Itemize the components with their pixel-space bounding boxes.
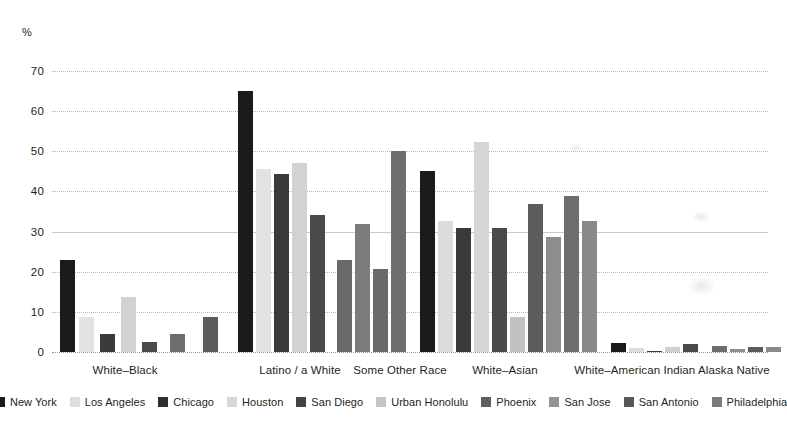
legend-swatch-icon [0,397,5,407]
y-axis-tick-0: 0 [14,346,44,358]
bar [373,269,388,352]
legend-swatch-icon [158,397,168,407]
chart-legend: New YorkLos AngelesChicagoHoustonSan Die… [0,396,782,408]
bar [582,221,597,352]
y-axis-unit-label: % [22,26,32,38]
x-axis-label-1: Latino / a White [259,364,341,376]
legend-item-label: Los Angeles [85,396,146,408]
legend-item-label: Urban Honolulu [391,396,468,408]
bar [292,163,307,352]
bar [256,169,271,352]
bar [510,317,525,352]
y-axis-tick-50: 50 [14,145,44,157]
legend-item-label: San Diego [311,396,363,408]
bar [121,297,136,352]
legend-item[interactable]: Urban Honolulu [376,396,468,408]
bar [100,334,115,352]
scan-artifact [568,143,584,153]
bar [766,347,781,352]
bar [310,215,325,352]
y-axis-tick-20: 20 [14,266,44,278]
bar [142,342,157,352]
bar [337,260,352,352]
legend-swatch-icon [712,397,722,407]
y-axis-tick-40: 40 [14,185,44,197]
legend-item-label: Houston [242,396,283,408]
bar [456,228,471,352]
legend-item-label: San Antonio [639,396,699,408]
bar [611,343,626,352]
x-axis-label-3: White–Asian [472,364,538,376]
legend-item-label: Phoenix [496,396,536,408]
legend-item-label: Chicago [173,396,214,408]
plot-area [52,71,768,352]
legend-swatch-icon [624,397,634,407]
legend-item-label: San Jose [564,396,610,408]
legend-item-label: Philadelphia [727,396,787,408]
y-axis-tick-70: 70 [14,65,44,77]
legend-item-label: New York [10,396,57,408]
legend-swatch-icon [70,397,80,407]
legend-item[interactable]: Phoenix [481,396,536,408]
x-axis-label-0: White–Black [92,364,157,376]
bar [355,224,370,352]
legend-item[interactable]: San Diego [296,396,363,408]
bar [420,171,435,352]
bar [564,196,579,352]
bar [170,334,185,352]
y-axis-tick-60: 60 [14,105,44,117]
bar [274,174,289,352]
bar [492,228,507,352]
x-axis-baseline [52,352,768,353]
legend-swatch-icon [376,397,386,407]
y-axis-tick-30: 30 [14,226,44,238]
legend-item[interactable]: San Antonio [624,396,699,408]
legend-swatch-icon [549,397,559,407]
bar [60,260,75,352]
legend-item[interactable]: Los Angeles [70,396,146,408]
bar [203,317,218,352]
y-axis-tick-10: 10 [14,306,44,318]
legend-item[interactable]: Chicago [158,396,214,408]
legend-item[interactable]: New York [0,396,57,408]
bar [438,221,453,352]
legend-item[interactable]: Houston [227,396,283,408]
bar [474,142,489,352]
x-axis-label-2: Some Other Race [353,364,447,376]
legend-item[interactable]: Philadelphia [712,396,787,408]
scan-artifact [692,211,710,223]
legend-swatch-icon [227,397,237,407]
bar [238,91,253,352]
legend-item[interactable]: San Jose [549,396,610,408]
bar [391,151,406,352]
bar [528,204,543,352]
scan-artifact [687,276,717,296]
legend-swatch-icon [481,397,491,407]
legend-swatch-icon [296,397,306,407]
bar [79,317,94,352]
bar [546,237,561,352]
bar [683,344,698,352]
x-axis-label-4: White–American Indian Alaska Native [574,364,769,376]
